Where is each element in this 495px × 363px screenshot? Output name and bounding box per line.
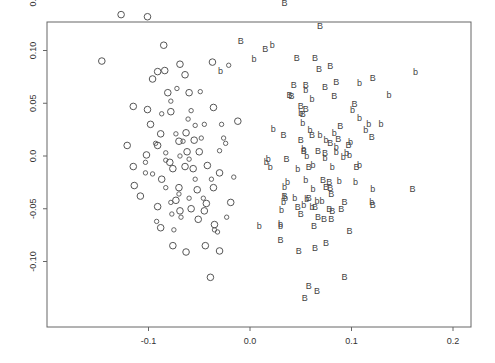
- point-large-circle: [184, 148, 191, 155]
- y-tick-label: 0.0: [28, 150, 38, 163]
- point-small-circle: [169, 99, 173, 103]
- point-large-circle: [144, 13, 151, 20]
- point-large-circle: [130, 163, 137, 170]
- point-large-circle: [157, 131, 164, 138]
- plot-frame: [47, 22, 471, 327]
- point-small-circle: [174, 132, 178, 136]
- point-large-circle: [195, 216, 202, 223]
- point-large-circle: [154, 68, 161, 75]
- point-B: B: [294, 53, 300, 63]
- point-small-circle: [199, 136, 203, 140]
- point-B: B: [409, 184, 415, 194]
- x-tick-label: 0.2: [447, 336, 460, 346]
- point-B: B: [315, 146, 321, 156]
- point-b: b: [303, 85, 308, 95]
- point-b: b: [350, 105, 355, 115]
- point-b: b: [309, 202, 314, 212]
- point-b: b: [369, 197, 374, 207]
- point-large-circle: [183, 129, 190, 136]
- point-small-circle: [170, 212, 174, 216]
- point-b: b: [413, 67, 418, 77]
- point-large-circle: [183, 249, 190, 256]
- point-large-circle: [209, 59, 216, 66]
- point-b: b: [300, 118, 305, 128]
- point-large-circle: [202, 242, 209, 249]
- point-small-circle: [189, 108, 193, 112]
- point-b: b: [278, 221, 283, 231]
- point-b: b: [320, 196, 325, 206]
- point-small-circle: [143, 160, 147, 164]
- point-b: b: [309, 94, 314, 104]
- point-B: B: [322, 82, 328, 92]
- point-b: b: [332, 128, 337, 138]
- point-large-circle: [99, 58, 106, 65]
- point-B: B: [306, 281, 312, 291]
- point-small-circle: [224, 215, 228, 219]
- point-b: b: [353, 177, 358, 187]
- point-small-circle: [177, 192, 181, 196]
- point-small-circle: [179, 215, 183, 219]
- point-large-circle: [211, 221, 218, 228]
- point-b: b: [298, 108, 303, 118]
- point-small-circle: [169, 200, 173, 204]
- point-b: b: [292, 193, 297, 203]
- point-b: b: [307, 125, 312, 135]
- point-large-circle: [176, 184, 183, 191]
- point-large-circle: [188, 205, 195, 212]
- point-B: B: [312, 243, 318, 253]
- point-b: b: [330, 162, 335, 172]
- point-B: B: [327, 61, 333, 71]
- point-large-circle: [154, 203, 161, 210]
- point-b: b: [301, 200, 306, 210]
- point-b: b: [378, 119, 383, 129]
- point-B: B: [323, 238, 329, 248]
- point-large-circle: [137, 193, 144, 200]
- point-large-circle: [196, 148, 203, 155]
- point-large-circle: [143, 152, 150, 159]
- point-b: b: [363, 125, 368, 135]
- point-large-circle: [173, 197, 180, 204]
- point-small-circle: [181, 139, 185, 143]
- point-B: B: [337, 121, 343, 131]
- point-large-circle: [177, 61, 184, 68]
- point-B: B: [333, 77, 339, 87]
- point-large-circle: [164, 89, 171, 96]
- point-large-circle: [177, 208, 184, 215]
- point-B: B: [312, 53, 318, 63]
- point-b: b: [341, 152, 346, 162]
- point-b: b: [304, 151, 309, 161]
- point-b: b: [310, 184, 315, 194]
- point-large-circle: [157, 224, 164, 231]
- point-large-circle: [176, 138, 183, 145]
- point-large-circle: [182, 71, 189, 78]
- x-tick-label: 0.1: [345, 336, 358, 346]
- point-large-circle: [216, 248, 223, 255]
- y-axis: -0.10-0.050.00.050.100.15: [28, 0, 47, 272]
- point-b: b: [303, 175, 308, 185]
- point-b: b: [282, 182, 287, 192]
- x-axis: -0.10.00.10.2: [141, 327, 460, 346]
- point-b: b: [295, 164, 300, 174]
- point-small-circle: [193, 177, 197, 181]
- point-small-circle: [178, 154, 182, 158]
- point-B: B: [369, 132, 375, 142]
- point-B: B: [302, 293, 308, 303]
- x-tick-label: -0.1: [141, 336, 157, 346]
- point-B: B: [346, 226, 352, 236]
- point-b: b: [357, 78, 362, 88]
- point-large-circle: [144, 106, 151, 113]
- point-large-circle: [168, 108, 175, 115]
- point-large-circle: [186, 89, 193, 96]
- point-b: b: [318, 130, 323, 140]
- point-b: b: [357, 113, 362, 123]
- point-small-circle: [217, 149, 221, 153]
- point-B: B: [296, 246, 302, 256]
- point-small-circle: [186, 117, 190, 121]
- point-B: B: [262, 44, 268, 54]
- y-tick-label: 0.05: [28, 94, 38, 112]
- y-tick-label: -0.05: [28, 198, 38, 219]
- point-large-circle: [149, 76, 156, 83]
- point-large-circle: [118, 11, 125, 18]
- point-small-circle: [223, 141, 227, 145]
- point-b: b: [337, 176, 342, 186]
